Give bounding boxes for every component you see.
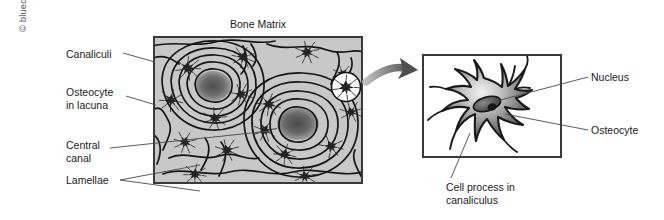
copyright-notice: © bluedoor, LLC — [16, 0, 30, 32]
bone-histology-figure: © bluedoor, LLC Bone Matrix — [0, 0, 664, 220]
label-central-canal: Central canal — [66, 139, 100, 164]
label-cell-process-in-canaliculus: Cell process in canaliculus — [446, 181, 515, 206]
label-osteocyte-in-lacuna: Osteocyte in lacuna — [66, 86, 113, 111]
panel-title-bone-matrix: Bone Matrix — [153, 18, 363, 30]
leader-osteocyte-lacuna — [126, 96, 156, 105]
magnifier-circle — [332, 73, 361, 102]
label-lamellae: Lamellae — [66, 174, 109, 187]
label-canaliculi: Canaliculi — [66, 48, 112, 61]
leader-canaliculi — [123, 53, 155, 62]
osteocyte-illustration — [424, 56, 560, 156]
bone-matrix-panel — [153, 36, 363, 184]
label-nucleus: Nucleus — [591, 71, 629, 84]
bone-matrix-illustration — [155, 38, 361, 182]
osteocyte-detail-panel — [422, 54, 562, 158]
label-osteocyte: Osteocyte — [591, 124, 638, 137]
magnifier-arrow-icon — [366, 58, 418, 82]
